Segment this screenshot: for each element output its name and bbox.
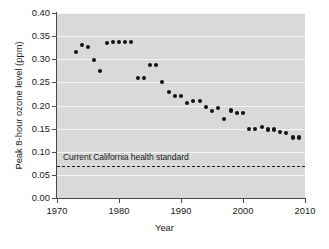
data-point — [297, 135, 301, 139]
y-axis-tick-label: 0.20 — [20, 100, 50, 111]
health-standard-line — [57, 166, 305, 167]
y-axis-tick — [52, 198, 57, 199]
y-axis-tick — [52, 129, 57, 130]
gridline — [57, 106, 305, 107]
data-point — [266, 127, 270, 131]
health-standard-label: Current California health standard — [63, 152, 189, 162]
data-point — [154, 63, 158, 67]
y-axis-tick-label: 0.30 — [20, 53, 50, 64]
data-point — [222, 117, 226, 121]
gridline — [57, 82, 305, 83]
data-point — [148, 63, 152, 67]
x-axis-tick-label: 1980 — [109, 205, 130, 216]
data-point — [272, 127, 276, 131]
gridline — [57, 13, 305, 14]
y-axis-tick — [52, 106, 57, 107]
y-axis-tick-label: 0.05 — [20, 169, 50, 180]
data-point — [98, 69, 102, 73]
data-point — [260, 125, 264, 129]
x-axis-tick-label: 2000 — [233, 205, 254, 216]
y-axis-tick-label: 0.35 — [20, 30, 50, 41]
data-point — [204, 105, 208, 109]
data-point — [210, 109, 214, 113]
data-point — [92, 58, 96, 62]
x-axis-tick — [57, 198, 58, 203]
x-axis-tick — [305, 198, 306, 203]
data-point — [278, 130, 282, 134]
data-point — [198, 99, 202, 103]
data-point — [173, 94, 177, 98]
y-axis-tick-label: 0.00 — [20, 192, 50, 203]
y-axis-tick-labels: 0.000.050.100.150.200.250.300.350.40 — [17, 0, 50, 249]
data-point — [241, 111, 245, 115]
y-axis-tick-label: 0.15 — [20, 123, 50, 134]
data-point — [284, 131, 288, 135]
y-axis-tick — [52, 13, 57, 14]
y-axis-tick-label: 0.40 — [20, 7, 50, 18]
x-axis-tick-label: 1990 — [171, 205, 192, 216]
data-point — [80, 43, 84, 47]
x-axis-label: Year — [0, 222, 329, 233]
x-axis-tick — [243, 198, 244, 203]
gridline — [57, 36, 305, 37]
data-point — [167, 90, 171, 94]
plot-area: Current California health standard — [57, 13, 305, 198]
data-point — [129, 40, 133, 44]
y-axis-tick — [52, 82, 57, 83]
data-point — [142, 76, 146, 80]
x-axis-tick-label: 2010 — [295, 205, 316, 216]
data-point — [74, 50, 78, 54]
data-point — [117, 40, 121, 44]
y-axis-tick — [52, 59, 57, 60]
data-point — [111, 40, 115, 44]
data-point — [216, 106, 220, 110]
data-point — [179, 94, 183, 98]
y-axis-tick-label: 0.10 — [20, 146, 50, 157]
data-point — [123, 40, 127, 44]
x-axis-tick-label: 1970 — [47, 205, 68, 216]
data-point — [229, 108, 233, 112]
y-axis-tick-label: 0.25 — [20, 76, 50, 87]
data-point — [86, 45, 90, 49]
gridline — [57, 175, 305, 176]
data-point — [253, 127, 257, 131]
data-point — [247, 127, 251, 131]
y-axis-tick — [52, 36, 57, 37]
ozone-scatter-chart: Peak 8-hour ozone level (ppm) 0.000.050.… — [0, 0, 329, 249]
data-point — [235, 111, 239, 115]
data-point — [291, 135, 295, 139]
data-point — [105, 41, 109, 45]
data-point — [191, 99, 195, 103]
data-point — [185, 101, 189, 105]
data-point — [136, 76, 140, 80]
x-axis-tick — [119, 198, 120, 203]
y-axis-tick — [52, 152, 57, 153]
x-axis-tick — [181, 198, 182, 203]
y-axis-tick — [52, 175, 57, 176]
